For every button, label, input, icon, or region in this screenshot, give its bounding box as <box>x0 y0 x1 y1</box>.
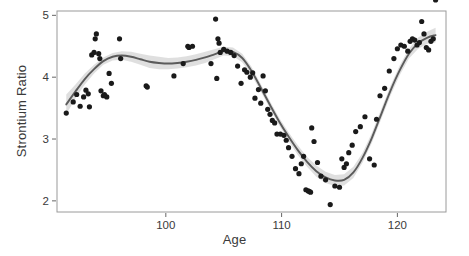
scatter-point <box>419 19 424 24</box>
y-axis-tick-marks <box>52 15 56 201</box>
scatter-point <box>96 51 101 56</box>
scatter-point <box>252 96 257 101</box>
scatter-point <box>97 56 102 61</box>
scatter-point <box>286 145 291 150</box>
scatter-point <box>117 36 122 41</box>
scatter-point <box>387 68 392 73</box>
scatter-point <box>350 143 355 148</box>
scatter-point <box>272 120 277 125</box>
scatter-point <box>256 87 261 92</box>
scatter-point <box>281 133 286 138</box>
scatter-point <box>301 154 306 159</box>
scatter-point <box>405 49 410 54</box>
scatter-point <box>71 99 76 104</box>
scatter-point <box>213 16 218 21</box>
scatter-point <box>81 94 86 99</box>
x-tick-label: 100 <box>156 219 175 231</box>
scatter-point <box>299 161 304 166</box>
scatter-point <box>118 56 123 61</box>
scatter-point <box>374 117 379 122</box>
y-tick-label: 3 <box>33 133 49 145</box>
scatter-point <box>293 166 298 171</box>
scatter-point <box>382 86 387 91</box>
scatter-point <box>296 171 301 176</box>
scatter-point <box>353 129 358 134</box>
scatter-point <box>171 73 176 78</box>
scatter-point <box>323 177 328 182</box>
scatter-point <box>344 161 349 166</box>
scatter-point <box>421 31 426 36</box>
plot-panel-background <box>57 11 446 212</box>
scatter-point <box>267 112 272 117</box>
scatter-point <box>412 37 417 42</box>
scatter-point <box>87 104 92 109</box>
scatter-point <box>372 162 377 167</box>
scatter-point <box>94 31 99 36</box>
scatter-point <box>78 104 83 109</box>
scatter-point <box>332 183 337 188</box>
scatter-point <box>426 47 431 52</box>
scatter-point <box>289 154 294 159</box>
scatter-point <box>377 93 382 98</box>
scatter-point <box>235 63 240 68</box>
scatter-point <box>308 190 313 195</box>
scatter-point <box>93 36 98 41</box>
scatter-point <box>181 61 186 66</box>
scatter-point <box>86 91 91 96</box>
scatter-point <box>216 41 221 46</box>
scatter-point <box>104 94 109 99</box>
scatter-point <box>244 70 249 75</box>
scatter-point <box>232 53 237 58</box>
scatter-point <box>391 56 396 61</box>
y-axis-title: Strontium Ratio <box>14 0 32 222</box>
x-axis-tick-marks <box>166 213 398 217</box>
scatter-point <box>250 70 255 75</box>
y-tick-label: 4 <box>33 71 49 83</box>
scatter-point <box>263 88 268 93</box>
scatter-plot-figure: 100110120 2345 Age Strontium Ratio <box>0 0 469 256</box>
scatter-point <box>362 114 367 119</box>
x-tick-label: 120 <box>388 219 407 231</box>
y-tick-label: 2 <box>33 195 49 207</box>
scatter-point <box>346 150 351 155</box>
scatter-point <box>417 40 422 45</box>
scatter-point <box>318 174 323 179</box>
scatter-point <box>214 76 219 81</box>
scatter-point <box>190 44 195 49</box>
scatter-point <box>260 73 265 78</box>
scatter-point <box>339 156 344 161</box>
scatter-point <box>265 107 270 112</box>
scatter-point <box>284 138 289 143</box>
y-tick-label: 5 <box>33 9 49 21</box>
scatter-point <box>91 50 96 55</box>
scatter-point <box>433 0 438 3</box>
scatter-point <box>238 81 243 86</box>
scatter-point <box>402 44 407 49</box>
scatter-point <box>109 81 114 86</box>
scatter-point <box>328 202 333 207</box>
scatter-point <box>367 156 372 161</box>
plot-canvas <box>0 0 469 256</box>
scatter-point <box>74 92 79 97</box>
scatter-point <box>145 84 150 89</box>
x-axis-title: Age <box>0 232 469 247</box>
scatter-point <box>107 71 112 76</box>
scatter-point <box>358 124 363 129</box>
scatter-point <box>315 160 320 165</box>
scatter-point <box>64 110 69 115</box>
scatter-point <box>258 101 263 106</box>
scatter-point <box>208 61 213 66</box>
scatter-point <box>431 36 436 41</box>
scatter-point <box>337 185 342 190</box>
x-tick-label: 110 <box>272 219 290 231</box>
scatter-point <box>311 139 316 144</box>
scatter-point <box>309 125 314 130</box>
